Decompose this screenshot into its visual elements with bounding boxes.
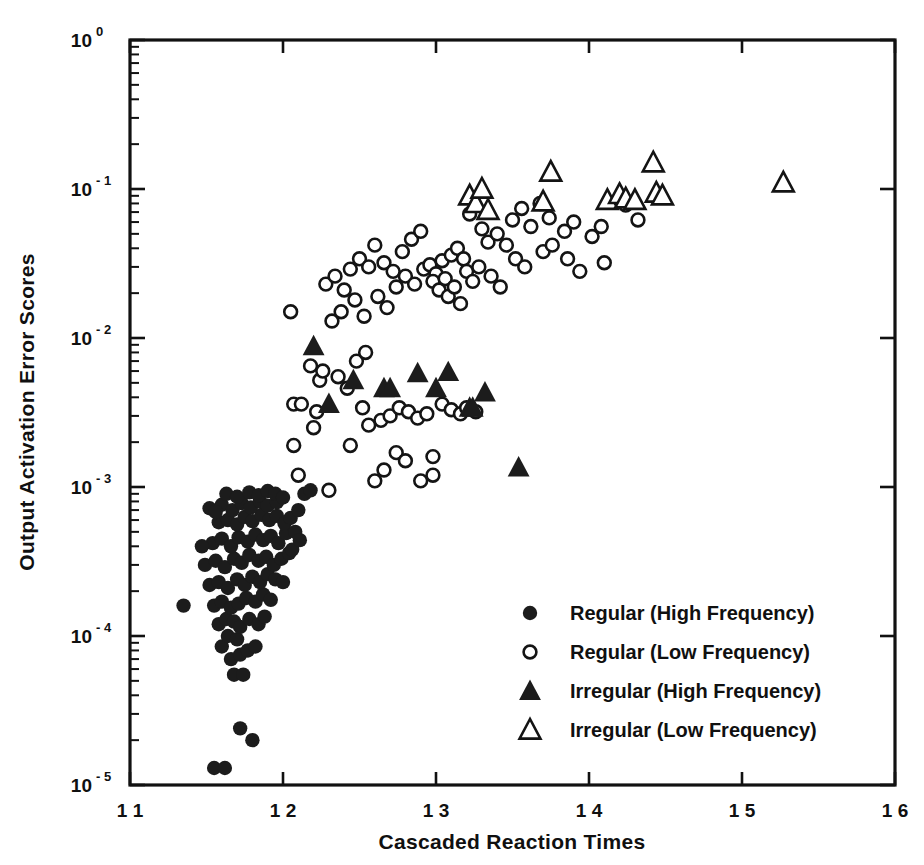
data-point-open-circle bbox=[368, 474, 381, 487]
data-point-open-triangle bbox=[773, 172, 794, 192]
data-point-open-circle bbox=[359, 346, 372, 359]
data-point-open-circle bbox=[494, 281, 507, 294]
data-point-filled-circle bbox=[291, 503, 305, 517]
x-tick-label: 1 2 bbox=[270, 800, 296, 821]
data-point-filled-triangle bbox=[508, 456, 530, 476]
data-point-filled-triangle bbox=[474, 381, 496, 401]
data-point-filled-circle bbox=[303, 483, 317, 497]
data-point-filled-circle bbox=[230, 632, 244, 646]
data-point-open-circle bbox=[573, 265, 586, 278]
scatter-plot-figure: 1 11 21 31 41 51 6 10010- 110- 210- 310-… bbox=[0, 0, 924, 865]
data-point-open-circle bbox=[595, 220, 608, 233]
data-point-open-circle bbox=[292, 469, 305, 482]
y-tick-mantissa: 10 bbox=[71, 328, 92, 349]
data-point-open-circle bbox=[378, 464, 391, 477]
data-point-filled-circle bbox=[236, 667, 250, 681]
data-point-filled-circle bbox=[208, 505, 222, 519]
data-point-open-circle bbox=[381, 301, 394, 314]
data-point-open-circle bbox=[329, 270, 342, 283]
data-point-open-circle bbox=[515, 202, 528, 215]
data-point-open-circle bbox=[362, 261, 375, 274]
y-tick-exponent: 0 bbox=[96, 24, 103, 39]
data-point-filled-triangle bbox=[342, 369, 364, 389]
x-tick-label: 1 3 bbox=[423, 800, 449, 821]
data-point-open-circle bbox=[427, 469, 440, 482]
y-tick-exponent: - 5 bbox=[96, 769, 111, 784]
data-point-open-circle bbox=[338, 284, 351, 297]
data-point-open-circle bbox=[524, 220, 537, 233]
data-point-filled-circle bbox=[233, 721, 247, 735]
data-point-open-circle bbox=[472, 261, 485, 274]
data-point-filled-circle bbox=[257, 609, 271, 623]
data-point-open-circle bbox=[476, 222, 489, 235]
data-point-open-circle bbox=[632, 214, 645, 227]
data-point-filled-triangle bbox=[407, 362, 429, 382]
y-axis-tick-labels: 10010- 110- 210- 310- 410- 5 bbox=[71, 24, 112, 796]
data-point-open-circle bbox=[500, 239, 513, 252]
y-tick-exponent: - 4 bbox=[96, 620, 112, 635]
data-point-open-circle bbox=[420, 407, 433, 420]
data-point-open-circle bbox=[543, 211, 556, 224]
series-1 bbox=[284, 197, 644, 497]
x-tick-label: 1 5 bbox=[729, 800, 756, 821]
series-0 bbox=[176, 483, 317, 775]
data-point-open-circle bbox=[295, 398, 308, 411]
y-tick-mantissa: 10 bbox=[71, 179, 92, 200]
data-point-filled-triangle bbox=[303, 335, 325, 355]
data-point-open-circle bbox=[485, 270, 498, 283]
series-3 bbox=[459, 152, 794, 219]
legend-entry-label: Regular (Low Frequency) bbox=[570, 641, 810, 663]
data-point-open-circle bbox=[457, 252, 470, 265]
data-point-filled-circle bbox=[245, 733, 259, 747]
data-point-filled-circle bbox=[276, 490, 290, 504]
data-point-open-triangle bbox=[643, 152, 664, 172]
data-point-open-circle bbox=[349, 294, 362, 307]
data-point-open-triangle bbox=[471, 178, 492, 198]
data-point-filled-circle bbox=[230, 490, 244, 504]
data-point-open-circle bbox=[332, 370, 345, 383]
data-point-open-circle bbox=[491, 227, 504, 240]
data-point-open-circle bbox=[371, 290, 384, 303]
data-point-filled-triangle bbox=[318, 393, 340, 413]
legend-marker-filled-circle bbox=[523, 606, 537, 620]
y-tick-mantissa: 10 bbox=[71, 775, 92, 796]
x-axis-title: Cascaded Reaction Times bbox=[379, 830, 646, 853]
legend-marker-filled-triangle bbox=[519, 680, 541, 700]
data-point-open-circle bbox=[408, 278, 421, 291]
data-point-open-circle bbox=[399, 454, 412, 467]
y-tick-mantissa: 10 bbox=[71, 477, 92, 498]
data-point-filled-triangle bbox=[437, 361, 459, 381]
legend-marker-open-circle bbox=[524, 646, 537, 659]
legend-entry-label: Irregular (Low Frequency) bbox=[570, 719, 817, 741]
data-point-open-circle bbox=[414, 225, 427, 238]
data-point-open-circle bbox=[518, 261, 531, 274]
data-point-open-circle bbox=[368, 239, 381, 252]
data-point-open-circle bbox=[561, 252, 574, 265]
data-point-open-triangle bbox=[540, 161, 561, 181]
data-point-open-circle bbox=[390, 281, 403, 294]
data-point-filled-circle bbox=[195, 539, 209, 553]
data-point-open-circle bbox=[506, 214, 519, 227]
data-point-open-circle bbox=[304, 359, 317, 372]
data-point-open-circle bbox=[362, 419, 375, 432]
data-point-open-circle bbox=[356, 401, 369, 414]
data-point-open-circle bbox=[546, 239, 559, 252]
data-point-open-circle bbox=[598, 256, 611, 269]
x-tick-label: 1 4 bbox=[576, 800, 603, 821]
x-tick-label: 1 6 bbox=[882, 800, 908, 821]
data-point-open-circle bbox=[335, 305, 348, 318]
y-tick-mantissa: 10 bbox=[71, 30, 92, 51]
x-axis-tick-labels: 1 11 21 31 41 51 6 bbox=[117, 800, 908, 821]
data-point-filled-circle bbox=[248, 639, 262, 653]
data-point-open-circle bbox=[448, 281, 461, 294]
data-point-open-circle bbox=[307, 421, 320, 434]
legend-entry-label: Irregular (High Frequency) bbox=[570, 680, 821, 702]
data-point-open-circle bbox=[567, 216, 580, 229]
data-point-filled-circle bbox=[264, 593, 278, 607]
data-point-open-circle bbox=[427, 450, 440, 463]
data-point-open-circle bbox=[344, 439, 357, 452]
data-point-open-circle bbox=[466, 275, 479, 288]
data-point-filled-circle bbox=[293, 533, 307, 547]
y-tick-exponent: - 2 bbox=[96, 322, 111, 337]
plot-canvas: 1 11 21 31 41 51 6 10010- 110- 210- 310-… bbox=[0, 0, 924, 865]
